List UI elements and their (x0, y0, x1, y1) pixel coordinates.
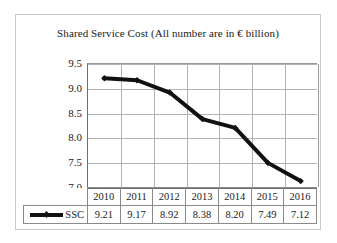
table-cell-value: 7.49 (251, 206, 284, 224)
table-cell-year: 2010 (88, 188, 121, 206)
data-table-wrapper: 2010201120122013201420152016 SSC 9.219.1… (23, 187, 317, 223)
data-table: 2010201120122013201420152016 SSC 9.219.1… (23, 187, 317, 224)
table-row-values: SSC 9.219.178.928.388.207.497.12 (24, 206, 317, 224)
table-cell-year: 2014 (218, 188, 251, 206)
table-cell-value: 9.21 (88, 206, 121, 224)
table-row-years: 2010201120122013201420152016 (24, 188, 317, 206)
table-cell-year: 2015 (251, 188, 284, 206)
legend-cell: SSC (24, 206, 88, 224)
y-axis-tick-8-0: 8.0 (48, 131, 82, 143)
table-cell-year: 2011 (120, 188, 153, 206)
y-axis-tick-9-5: 9.5 (48, 57, 82, 69)
chart-title: Shared Service Cost (All number are in €… (16, 27, 320, 39)
table-cell-value: 7.12 (284, 206, 317, 224)
data-point-marker (101, 75, 107, 81)
table-cell-value: 8.38 (186, 206, 219, 224)
y-axis-tick-labels: 9.59.08.58.07.57.0 (42, 63, 82, 187)
table-cell-year: 2012 (153, 188, 186, 206)
legend-spacer-cell (24, 188, 88, 206)
line-diamond-marker-icon (30, 206, 63, 223)
chart-frame: Shared Service Cost (All number are in €… (15, 14, 321, 230)
y-axis-tick-8-5: 8.5 (48, 107, 82, 119)
plot-area (87, 63, 317, 187)
table-cell-value: 8.92 (153, 206, 186, 224)
table-cell-value: 9.17 (120, 206, 153, 224)
table-cell-year: 2013 (186, 188, 219, 206)
legend-series-label: SSC (65, 206, 85, 223)
plot-area-wrapper (87, 63, 317, 187)
table-cell-value: 8.20 (218, 206, 251, 224)
gridline-vertical (318, 64, 319, 187)
series-ssc-line (88, 64, 317, 187)
table-cell-year: 2016 (284, 188, 317, 206)
y-axis-tick-9-0: 9.0 (48, 82, 82, 94)
y-axis-tick-7-5: 7.5 (48, 156, 82, 168)
